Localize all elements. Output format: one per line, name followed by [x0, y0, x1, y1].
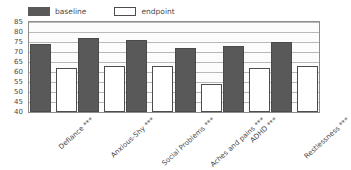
bar-baseline	[175, 48, 196, 112]
bar-baseline	[30, 44, 51, 112]
y-tick-label: 55	[14, 79, 23, 86]
legend-label-endpoint: endpoint	[141, 7, 174, 16]
x-tick-label: Anxious-Shy ***	[109, 116, 156, 159]
y-axis: 40455055606570758085	[0, 21, 26, 113]
y-tick-label: 85	[14, 19, 23, 26]
bar-endpoint	[152, 66, 173, 112]
bar-baseline	[78, 38, 99, 112]
y-tick-label: 75	[14, 39, 23, 46]
bar-baseline	[126, 40, 147, 112]
legend-item-endpoint[interactable]: endpoint	[114, 7, 174, 16]
legend-item-baseline[interactable]: baseline	[28, 7, 86, 16]
bar-baseline	[271, 42, 292, 112]
y-tick-label: 45	[14, 99, 23, 106]
chart-legend: baseline endpoint	[28, 5, 175, 18]
y-tick-label: 70	[14, 49, 23, 56]
bar-endpoint	[201, 84, 222, 112]
bar-endpoint	[249, 68, 270, 112]
bars-layer	[29, 22, 319, 112]
x-axis: Defiance ***Anxious-Shy ***Social Proble…	[28, 113, 320, 170]
x-tick-label: Aches and pains ***	[209, 116, 266, 169]
empty-white-square-icon	[114, 7, 136, 16]
bar-endpoint	[297, 66, 318, 112]
y-tick-label: 50	[14, 89, 23, 96]
x-tick-label: Restlessness ***	[303, 116, 351, 160]
y-tick-label: 60	[14, 69, 23, 76]
y-tick-label: 40	[14, 109, 23, 116]
plot-area	[28, 21, 320, 113]
x-tick-label: Social Problems ***	[160, 116, 216, 167]
bar-endpoint	[56, 68, 77, 112]
y-tick-label: 65	[14, 59, 23, 66]
x-tick-label: Defiance ***	[57, 116, 95, 151]
bar-endpoint	[104, 66, 125, 112]
y-tick-label: 80	[14, 29, 23, 36]
filled-dark-square-icon	[28, 7, 50, 16]
legend-label-baseline: baseline	[55, 7, 86, 16]
bar-baseline	[223, 46, 244, 112]
